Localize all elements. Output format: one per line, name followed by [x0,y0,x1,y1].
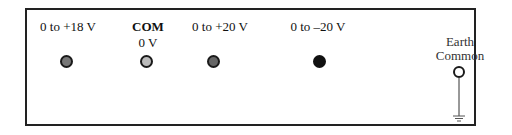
ground-symbol-icon [0,0,512,135]
